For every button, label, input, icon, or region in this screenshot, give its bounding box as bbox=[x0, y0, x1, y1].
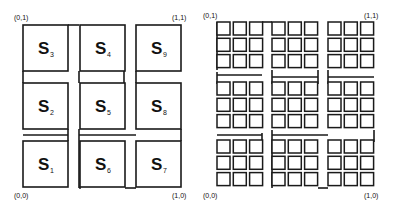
cell-s1: S1 bbox=[23, 141, 68, 187]
cell-s2: S2 bbox=[23, 83, 68, 129]
left-corner-bottom-left: (0,0) bbox=[14, 192, 28, 200]
left-corner-top-left: (0,1) bbox=[14, 14, 28, 22]
cell-label: S bbox=[151, 39, 162, 58]
left-cells: S1S2S3S4S5S6S7S8S9 bbox=[23, 25, 181, 187]
right-corner-bottom-right: (1,0) bbox=[364, 192, 378, 200]
cell-label: S bbox=[95, 155, 106, 174]
sub-block bbox=[272, 140, 318, 186]
cell-label: S bbox=[151, 155, 162, 174]
cell-s6: S6 bbox=[80, 141, 125, 187]
sub-block bbox=[328, 22, 374, 68]
cell-subscript: 2 bbox=[50, 109, 54, 116]
cell-label: S bbox=[38, 97, 49, 116]
cell-label: S bbox=[95, 97, 106, 116]
cell-subscript: 5 bbox=[107, 109, 111, 116]
peano-curve-figure: S1S2S3S4S5S6S7S8S9 (0,1) (1,1) (0,0) (1,… bbox=[0, 0, 394, 211]
left-corner-bottom-right: (1,0) bbox=[172, 192, 186, 200]
cell-subscript: 8 bbox=[163, 109, 167, 116]
right-cells bbox=[217, 22, 374, 186]
cell-s3: S3 bbox=[23, 25, 68, 71]
right-corner-top-right: (1,1) bbox=[364, 12, 378, 20]
cell-subscript: 3 bbox=[50, 51, 54, 58]
cell-subscript: 1 bbox=[50, 167, 54, 174]
sub-block bbox=[217, 82, 263, 128]
cell-label: S bbox=[38, 39, 49, 58]
sub-block bbox=[217, 140, 263, 186]
sub-block bbox=[328, 82, 374, 128]
left-diagram: S1S2S3S4S5S6S7S8S9 (0,1) (1,1) (0,0) (1,… bbox=[14, 14, 186, 200]
cell-label: S bbox=[38, 155, 49, 174]
cell-subscript: 4 bbox=[107, 51, 111, 58]
sub-block bbox=[272, 22, 318, 68]
cell-s8: S8 bbox=[136, 83, 181, 129]
cell-subscript: 7 bbox=[163, 167, 167, 174]
cell-label: S bbox=[151, 97, 162, 116]
right-corner-bottom-left: (0,0) bbox=[203, 192, 217, 200]
cell-s9: S9 bbox=[136, 25, 181, 71]
right-diagram: (0,1) (1,1) (0,0) (1,0) bbox=[203, 12, 378, 200]
cell-s5: S5 bbox=[80, 83, 125, 129]
cell-s4: S4 bbox=[80, 25, 125, 71]
cell-subscript: 9 bbox=[163, 51, 167, 58]
cell-label: S bbox=[95, 39, 106, 58]
sub-block bbox=[272, 82, 318, 128]
sub-block bbox=[217, 22, 263, 68]
cell-s7: S7 bbox=[136, 141, 181, 187]
left-corner-top-right: (1,1) bbox=[172, 14, 186, 22]
sub-block bbox=[328, 140, 374, 186]
right-corner-top-left: (0,1) bbox=[203, 12, 217, 20]
cell-subscript: 6 bbox=[107, 167, 111, 174]
